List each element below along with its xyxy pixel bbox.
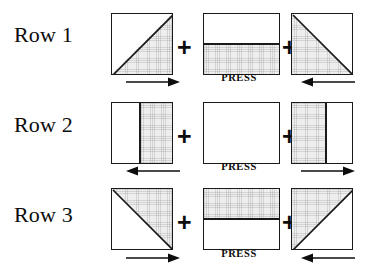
shaded-strip-right [139, 103, 172, 163]
row-2-blocks: + + [111, 100, 367, 166]
diagonal-seam-icon [112, 14, 173, 75]
row-2-block-3 [291, 102, 353, 164]
row-1-blocks: + + [111, 11, 367, 77]
shaded-strip-left [292, 103, 325, 163]
arrow-left-icon [301, 253, 355, 263]
arrow-left-icon [301, 77, 355, 87]
row-3-block-1 [111, 188, 173, 250]
quilt-row-assembly-diagram: Row 1 + + [0, 0, 369, 272]
diagonal-seam-icon [292, 14, 353, 75]
shaded-half-top [204, 189, 279, 219]
row-2-block-2 [203, 102, 280, 164]
row-3-block-2 [203, 188, 280, 250]
row-1-press-strip: PRESS [111, 72, 367, 88]
plus-sign-1: + [177, 210, 192, 235]
row-1-block-2 [203, 13, 280, 75]
diagram-row-1: Row 1 + + [0, 0, 369, 90]
row-3-press-strip: PRESS [111, 248, 367, 264]
row-3-label: Row 3 [14, 202, 106, 228]
diagram-row-3: Row 3 + + [0, 178, 369, 272]
plus-sign-1: + [177, 35, 192, 60]
row-3-block-3 [291, 188, 353, 250]
row-1-block-3 [291, 13, 353, 75]
vertical-seam-icon [139, 103, 141, 163]
row-3-blocks: + + [111, 186, 367, 252]
row-2-block-1 [111, 102, 173, 164]
plus-sign-1: + [177, 124, 192, 149]
row-1-label: Row 1 [14, 22, 106, 48]
vertical-seam-icon [325, 103, 327, 163]
shaded-half-bottom [204, 44, 279, 74]
diagram-row-2: Row 2 + + PRESS [0, 88, 369, 180]
horizontal-seam-icon [204, 43, 279, 45]
horizontal-seam-icon [204, 218, 279, 220]
row-2-label: Row 2 [14, 112, 106, 138]
diagonal-seam-icon [112, 189, 173, 250]
diagonal-seam-icon [292, 189, 353, 250]
arrow-right-icon [301, 166, 355, 176]
row-1-block-1 [111, 13, 173, 75]
row-2-press-strip: PRESS [111, 161, 367, 177]
